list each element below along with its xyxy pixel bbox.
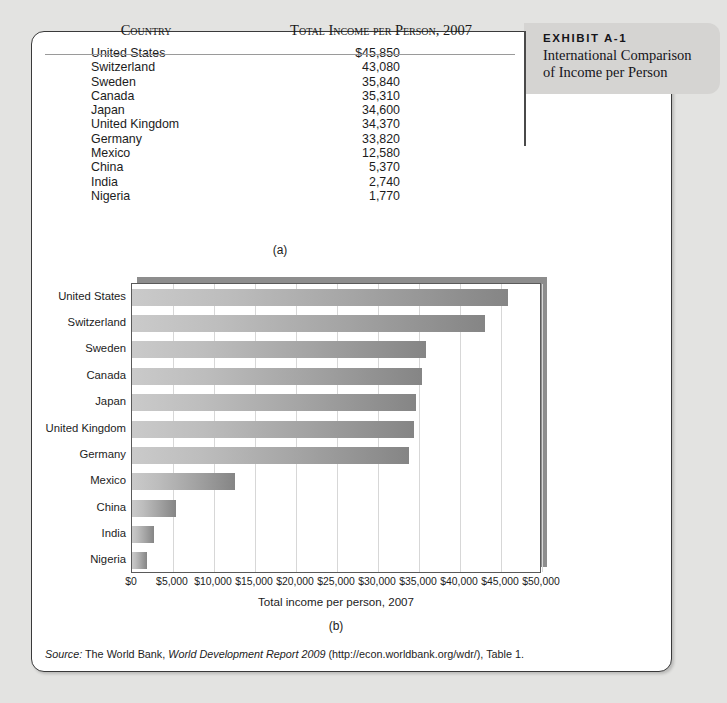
y-axis-label: China bbox=[14, 501, 126, 513]
income-table-body: United States$45,850Switzerland43,080Swe… bbox=[45, 46, 515, 203]
cell-country: Japan bbox=[45, 103, 247, 117]
bar bbox=[132, 447, 409, 464]
income-table-head: Country Total Income per Person, 2007 bbox=[45, 20, 515, 46]
cell-country: Mexico bbox=[45, 146, 247, 160]
y-axis-label: Japan bbox=[14, 395, 126, 407]
y-axis-label: United Kingdom bbox=[14, 422, 126, 434]
table-row: Germany33,820 bbox=[45, 132, 515, 146]
x-axis-ticks: $0$5,000$10,000$15,000$20,000$25,000$30,… bbox=[131, 576, 541, 592]
income-bar-chart: United StatesSwitzerlandSwedenCanadaJapa… bbox=[13, 243, 628, 633]
y-axis-label: Sweden bbox=[14, 342, 126, 354]
x-axis-tick-label: $35,000 bbox=[399, 576, 437, 587]
x-axis-tick-label: $20,000 bbox=[276, 576, 314, 587]
x-axis-tick-label: $0 bbox=[125, 576, 137, 587]
table-row: Japan34,600 bbox=[45, 103, 515, 117]
source-prefix: Source: bbox=[45, 648, 82, 660]
x-axis-tick-label: $10,000 bbox=[194, 576, 232, 587]
y-axis-label: Mexico bbox=[14, 474, 126, 486]
cell-income: 33,820 bbox=[247, 132, 515, 146]
bar bbox=[132, 289, 508, 306]
y-axis-label: Germany bbox=[14, 448, 126, 460]
cell-country: India bbox=[45, 175, 247, 189]
gridline bbox=[501, 284, 502, 572]
bar bbox=[132, 473, 235, 490]
exhibit-title-line2: of Income per Person bbox=[543, 64, 710, 81]
table-row: Switzerland43,080 bbox=[45, 60, 515, 74]
cell-country: Canada bbox=[45, 89, 247, 103]
cell-income: 34,600 bbox=[247, 103, 515, 117]
cell-income: 5,370 bbox=[247, 160, 515, 174]
cell-income: 43,080 bbox=[247, 60, 515, 74]
table-row: India2,740 bbox=[45, 175, 515, 189]
cell-income: 35,310 bbox=[247, 89, 515, 103]
header-income: Total Income per Person, 2007 bbox=[247, 20, 515, 46]
table-row: Sweden35,840 bbox=[45, 75, 515, 89]
table-header-row: Country Total Income per Person, 2007 bbox=[45, 20, 515, 46]
income-table: Country Total Income per Person, 2007 Un… bbox=[45, 20, 515, 203]
source-note: Source: The World Bank, World Developmen… bbox=[45, 648, 605, 660]
cell-country: United Kingdom bbox=[45, 117, 247, 131]
x-axis-tick-label: $45,000 bbox=[481, 576, 519, 587]
table-row: China5,370 bbox=[45, 160, 515, 174]
x-axis-tick-label: $50,000 bbox=[522, 576, 560, 587]
panel-label-b: (b) bbox=[131, 619, 541, 633]
income-table-wrapper: Country Total Income per Person, 2007 Un… bbox=[45, 20, 515, 203]
bar bbox=[132, 315, 485, 332]
bar bbox=[132, 526, 154, 543]
cell-income: 12,580 bbox=[247, 146, 515, 160]
cell-country: Germany bbox=[45, 132, 247, 146]
bar bbox=[132, 552, 147, 569]
exhibit-title-line1: International Comparison bbox=[543, 47, 710, 64]
header-country: Country bbox=[45, 20, 247, 46]
y-axis-label: Nigeria bbox=[14, 553, 126, 565]
bar bbox=[132, 368, 422, 385]
source-text-2: (http://econ.worldbank.org/wdr/), Table … bbox=[326, 648, 524, 660]
x-axis-tick-label: $15,000 bbox=[235, 576, 273, 587]
x-axis-tick-label: $40,000 bbox=[440, 576, 478, 587]
exhibit-tab: EXHIBIT A-1 International Comparison of … bbox=[524, 23, 720, 94]
table-row: Mexico12,580 bbox=[45, 146, 515, 160]
x-axis-title: Total income per person, 2007 bbox=[131, 595, 541, 608]
cell-income: 2,740 bbox=[247, 175, 515, 189]
exhibit-number: EXHIBIT A-1 bbox=[543, 32, 710, 44]
source-report-title: World Development Report 2009 bbox=[168, 648, 325, 660]
gridline bbox=[542, 284, 543, 572]
y-axis-label: Canada bbox=[14, 369, 126, 381]
tab-divider-rule bbox=[524, 31, 526, 146]
y-axis-labels: United StatesSwitzerlandSwedenCanadaJapa… bbox=[13, 283, 126, 573]
table-row: United Kingdom34,370 bbox=[45, 117, 515, 131]
cell-country: Sweden bbox=[45, 75, 247, 89]
bar bbox=[132, 341, 426, 358]
y-axis-label: United States bbox=[14, 290, 126, 302]
cell-income: 35,840 bbox=[247, 75, 515, 89]
y-axis-label: Switzerland bbox=[14, 316, 126, 328]
table-row: Canada35,310 bbox=[45, 89, 515, 103]
source-text-1: The World Bank, bbox=[82, 648, 168, 660]
plot-area bbox=[131, 283, 541, 573]
table-header-rule bbox=[45, 54, 515, 55]
bar bbox=[132, 394, 416, 411]
cell-country: Switzerland bbox=[45, 60, 247, 74]
x-axis-tick-label: $5,000 bbox=[156, 576, 188, 587]
exhibit-page: EXHIBIT A-1 International Comparison of … bbox=[0, 0, 727, 703]
bar bbox=[132, 500, 176, 517]
x-axis-tick-label: $30,000 bbox=[358, 576, 396, 587]
table-row: Nigeria1,770 bbox=[45, 189, 515, 203]
cell-income: 34,370 bbox=[247, 117, 515, 131]
cell-country: China bbox=[45, 160, 247, 174]
x-axis-tick-label: $25,000 bbox=[317, 576, 355, 587]
cell-country: Nigeria bbox=[45, 189, 247, 203]
cell-income: 1,770 bbox=[247, 189, 515, 203]
y-axis-label: India bbox=[14, 527, 126, 539]
bar bbox=[132, 421, 414, 438]
